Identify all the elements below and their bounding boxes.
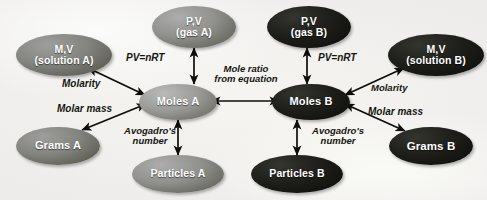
- edge-label-avogadro-a-line2: number: [118, 136, 182, 146]
- edge-label-pv-nrt-a: PV=nRT: [126, 53, 164, 64]
- edge-label-molarity-b-text: Molarity: [371, 82, 407, 93]
- edge-label-pv-nrt-b: PV=nRT: [318, 53, 356, 64]
- edge-label-molarity-b: Molarity: [371, 83, 407, 93]
- edge-label-avogadro-b: Avogadro's number: [306, 126, 370, 147]
- node-moles-a-line1: Moles A: [157, 95, 199, 107]
- edge-label-mole-ratio-line2: from equation: [206, 74, 286, 84]
- node-particles-a-line1: Particles A: [151, 167, 206, 179]
- node-moles-a-label: Moles A: [154, 96, 202, 108]
- node-pv-gas-b-line2: (gas B): [291, 27, 327, 38]
- node-pv-gas-a-label: P,V (gas A): [173, 16, 215, 38]
- edge-label-pv-nrt-b-text: PV=nRT: [318, 52, 356, 63]
- edge-label-molar-mass-b-text: Molar mass: [368, 106, 423, 117]
- edge-label-molar-mass-a-text: Molar mass: [57, 103, 112, 114]
- node-grams-b[interactable]: Grams B: [389, 127, 473, 165]
- node-grams-a-line1: Grams A: [35, 139, 81, 151]
- node-pv-gas-b-label: P,V (gas B): [288, 16, 330, 38]
- node-grams-a[interactable]: Grams A: [16, 127, 100, 165]
- edge-label-molar-mass-a: Molar mass: [57, 104, 112, 115]
- node-moles-a[interactable]: Moles A: [139, 84, 217, 120]
- node-pv-gas-a[interactable]: P,V (gas A): [152, 6, 236, 48]
- node-particles-b-line1: Particles B: [269, 167, 324, 179]
- edge-label-molarity-a-text: Molarity: [62, 78, 100, 89]
- node-particles-a-label: Particles A: [148, 168, 209, 179]
- connector-layer: [0, 0, 487, 200]
- node-grams-b-label: Grams B: [404, 140, 459, 152]
- edge-label-avogadro-b-line2: number: [306, 136, 370, 146]
- node-moles-b-line1: Moles B: [290, 95, 333, 107]
- node-pv-gas-a-line2: (gas A): [176, 27, 212, 38]
- node-mv-solution-b-line2: (solution B): [406, 55, 466, 66]
- edge-label-molarity-a: Molarity: [62, 79, 100, 90]
- node-mv-solution-a[interactable]: M,V (solution A): [16, 34, 112, 76]
- mole-conversion-diagram: P,V (gas A) P,V (gas B) M,V (solution A)…: [0, 0, 487, 200]
- edge-label-avogadro-a: Avogadro's number: [118, 126, 182, 147]
- node-particles-a[interactable]: Particles A: [132, 155, 224, 193]
- node-mv-solution-a-label: M,V (solution A): [31, 44, 96, 66]
- node-grams-a-label: Grams A: [32, 140, 84, 152]
- node-particles-b-label: Particles B: [266, 168, 327, 179]
- edge-label-molar-mass-b: Molar mass: [368, 107, 423, 118]
- node-mv-solution-b-label: M,V (solution B): [403, 44, 469, 66]
- node-mv-solution-b[interactable]: M,V (solution B): [388, 34, 484, 76]
- node-pv-gas-b[interactable]: P,V (gas B): [267, 6, 351, 48]
- node-mv-solution-a-line2: (solution A): [34, 55, 93, 66]
- node-particles-b[interactable]: Particles B: [251, 155, 343, 193]
- node-moles-b[interactable]: Moles B: [272, 84, 350, 120]
- edge-label-pv-nrt-a-text: PV=nRT: [126, 52, 164, 63]
- edge-label-mole-ratio: Mole ratio from equation: [206, 64, 286, 85]
- node-moles-b-label: Moles B: [287, 96, 336, 108]
- node-grams-b-line1: Grams B: [407, 140, 456, 152]
